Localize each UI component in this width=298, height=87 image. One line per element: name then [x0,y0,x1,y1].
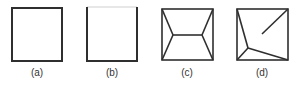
panel-c-edge-tl [162,9,173,35]
panel-label-d: (d) [242,66,282,80]
panel-b [87,7,137,61]
panel-label-a: (a) [17,66,57,80]
panel-a [12,8,62,61]
panel-c-edge-br [202,35,213,60]
panel-label-b: (b) [92,66,132,80]
panel-d-dangling-edge [262,9,288,34]
panel-label-c: (c) [167,66,207,80]
panel-d-edge-bl [237,48,248,60]
panel-b-edges [87,7,137,61]
panel-c-edge-tr [202,9,213,35]
panel-d [237,9,288,60]
panel-d-edge-tl [237,9,248,48]
panel-a-square [12,8,62,61]
panel-c-edge-bl [162,35,173,60]
panel-c [162,9,213,60]
panel-d-edge-br [248,48,288,60]
